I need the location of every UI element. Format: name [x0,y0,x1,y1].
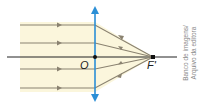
optical-center-point [93,55,97,59]
lens-arrow-bottom-icon [91,94,99,102]
focus-label: F' [147,59,156,71]
credit-line-2: Arquivo da editora [189,25,197,81]
optical-center-label: O [80,59,89,71]
lens-arrow-top-icon [91,6,99,14]
image-credit: Banco de imagens/ Arquivo da editora [178,8,200,98]
credit-line-1: Banco de imagens/ [182,25,190,81]
lens-diagram [0,0,202,106]
